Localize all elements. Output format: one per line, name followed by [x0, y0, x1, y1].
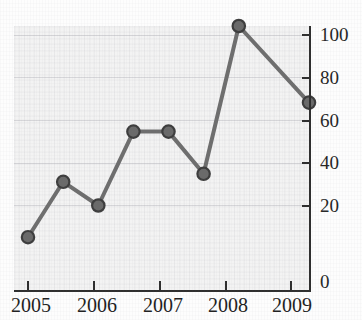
y-tick-80 [302, 77, 310, 79]
x-label-2007: 2007 [143, 295, 183, 315]
chart-series-svg [0, 0, 362, 320]
x-label-2009: 2009 [272, 295, 312, 315]
y-label-40: 40 [320, 153, 339, 172]
data-point-2008 [233, 20, 245, 32]
y-label-100: 100 [320, 25, 349, 44]
y-tick-40 [302, 162, 310, 164]
y-label-20: 20 [320, 196, 339, 215]
x-label-2005: 2005 [11, 295, 51, 315]
chart-figure: 100 80 60 40 20 0 2005 2006 2007 2008 20… [0, 0, 362, 320]
y-tick-20 [302, 205, 310, 207]
data-point-2006 [92, 199, 104, 211]
data-point-2006.5 [127, 125, 139, 137]
x-label-2006: 2006 [77, 295, 117, 315]
y-axis-line [309, 26, 311, 291]
y-label-80: 80 [320, 68, 339, 87]
x-tick-2009 [290, 281, 292, 290]
x-label-2008: 2008 [208, 295, 248, 315]
y-label-60: 60 [320, 111, 339, 130]
x-tick-2005 [27, 281, 29, 290]
y-tick-60 [302, 120, 310, 122]
y-label-0: 0 [320, 272, 330, 291]
x-tick-2008 [225, 281, 227, 290]
data-point-2005 [22, 231, 34, 243]
data-point-2007.5 [197, 168, 209, 180]
data-point-2007 [162, 125, 174, 137]
data-point-2005.5 [57, 176, 69, 188]
x-axis-line [14, 290, 311, 292]
series-markers [22, 20, 315, 244]
x-tick-2007 [159, 281, 161, 290]
x-tick-2006 [93, 281, 95, 290]
y-tick-100 [302, 34, 310, 36]
